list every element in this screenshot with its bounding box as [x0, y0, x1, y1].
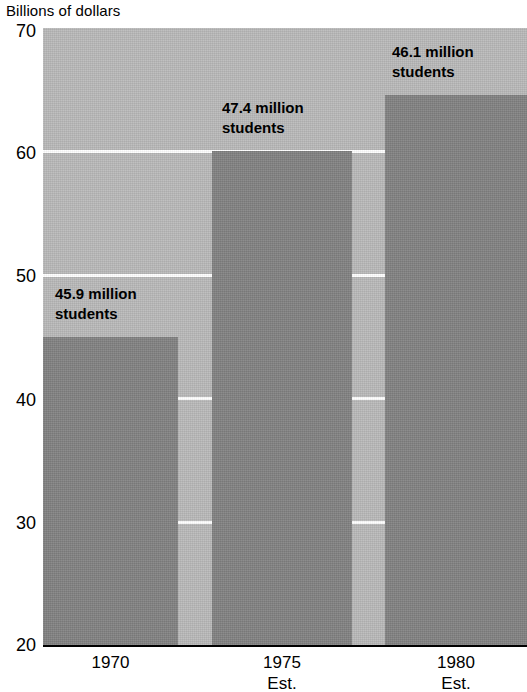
y-tick-20: 20 [2, 636, 36, 654]
y-tick-70: 70 [2, 22, 36, 40]
bar-1980[interactable] [385, 95, 527, 645]
y-tick-40: 40 [2, 391, 36, 409]
y-axis-title: Billions of dollars [6, 2, 120, 19]
annotation-1980: 46.1 million students [392, 42, 474, 83]
x-tick-1970-label: 1970 [92, 653, 130, 672]
x-tick-1975: 1975 Est. [212, 652, 352, 692]
y-tick-50: 50 [2, 267, 36, 285]
x-axis-line [43, 645, 527, 647]
x-tick-1975-sub: Est. [212, 673, 352, 692]
annotation-1975: 47.4 million students [222, 98, 304, 139]
x-tick-1980-sub: Est. [385, 673, 527, 692]
bar-1975[interactable] [212, 151, 352, 645]
x-tick-1970: 1970 [43, 652, 178, 673]
annotation-1970: 45.9 million students [55, 284, 137, 325]
annotation-1980-line2: students [392, 63, 455, 80]
annotation-1970-line1: 45.9 million [55, 285, 137, 302]
annotation-1970-line2: students [55, 305, 118, 322]
y-tick-60: 60 [2, 144, 36, 162]
annotation-1975-line2: students [222, 119, 285, 136]
x-tick-1980-label: 1980 [437, 653, 475, 672]
annotation-1980-line1: 46.1 million [392, 43, 474, 60]
x-tick-1975-label: 1975 [263, 653, 301, 672]
x-tick-1980: 1980 Est. [385, 652, 527, 692]
annotation-1975-line1: 47.4 million [222, 99, 304, 116]
y-tick-30: 30 [2, 514, 36, 532]
bar-1970[interactable] [43, 337, 178, 646]
bar-chart: Billions of dollars 70 60 50 40 30 20 45… [0, 0, 527, 692]
